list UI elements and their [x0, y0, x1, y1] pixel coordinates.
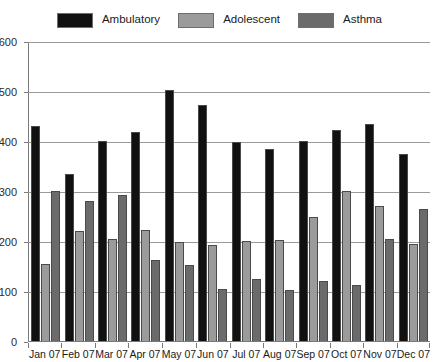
bar[interactable]: [332, 130, 341, 341]
x-axis-tick: [61, 343, 62, 348]
bar[interactable]: [285, 290, 294, 342]
chart-legend: AmbulatoryAdolescentAsthma: [0, 8, 439, 32]
y-axis-tick-label: 100: [0, 287, 17, 298]
x-axis-tick-label: Jan 07: [29, 349, 61, 360]
bar-chart: AmbulatoryAdolescentAsthma 0100200300400…: [0, 0, 439, 362]
y-axis-tick: [24, 192, 28, 193]
x-axis-tick-label: Oct 07: [331, 349, 362, 360]
x-axis-tick-label: Dec 07: [397, 349, 430, 360]
bar[interactable]: [98, 141, 107, 341]
x-axis-tick: [28, 343, 29, 348]
legend-item[interactable]: Ambulatory: [57, 13, 160, 28]
x-axis-tick: [196, 343, 197, 348]
legend-item[interactable]: Adolescent: [178, 13, 280, 28]
bar-group: [96, 42, 129, 341]
x-axis-category: Dec 07: [397, 343, 430, 362]
x-axis-tick-label: Jul 07: [232, 349, 260, 360]
x-axis-tick-label: Sep 07: [296, 349, 329, 360]
bar[interactable]: [299, 141, 308, 341]
bar[interactable]: [252, 279, 261, 342]
bar[interactable]: [165, 90, 174, 341]
x-axis-tick-label: Aug 07: [263, 349, 296, 360]
plot-area: 0100200300400500600: [28, 42, 430, 342]
bar[interactable]: [365, 124, 374, 342]
y-axis-tick: [24, 292, 28, 293]
bar[interactable]: [41, 264, 50, 342]
bar[interactable]: [275, 240, 284, 341]
bar[interactable]: [352, 285, 361, 342]
y-axis-tick-label: 500: [0, 87, 17, 98]
x-axis-tick-label: Feb 07: [62, 349, 95, 360]
x-axis-tick: [397, 343, 398, 348]
y-axis-tick-label: 400: [0, 137, 17, 148]
x-axis-category: Feb 07: [61, 343, 94, 362]
bar[interactable]: [342, 191, 351, 341]
y-axis-tick: [24, 242, 28, 243]
x-axis-tick: [363, 343, 364, 348]
bar[interactable]: [151, 260, 160, 341]
bar[interactable]: [208, 245, 217, 341]
x-axis-tick: [263, 343, 264, 348]
y-axis-tick-label: 600: [0, 37, 17, 48]
bar[interactable]: [75, 231, 84, 341]
bar-group: [129, 42, 162, 341]
bar-group: [263, 42, 296, 341]
x-axis-category: Oct 07: [330, 343, 363, 362]
x-axis-tick-label: Jun 07: [197, 349, 229, 360]
bar-group: [363, 42, 396, 341]
x-axis-category: Apr 07: [128, 343, 161, 362]
bar[interactable]: [309, 217, 318, 341]
bar[interactable]: [108, 239, 117, 342]
bar[interactable]: [409, 244, 418, 342]
y-axis-tick: [24, 92, 28, 93]
y-axis-tick: [24, 42, 28, 43]
x-axis-category: Aug 07: [263, 343, 296, 362]
x-axis-tick: [128, 343, 129, 348]
x-axis-category: Jan 07: [28, 343, 61, 362]
bar[interactable]: [399, 154, 408, 342]
bar[interactable]: [85, 201, 94, 341]
bar[interactable]: [419, 209, 428, 342]
bar[interactable]: [385, 239, 394, 342]
y-axis-tick: [24, 142, 28, 143]
bar[interactable]: [175, 242, 184, 341]
y-axis-tick-label: 300: [0, 187, 17, 198]
bar-group: [29, 42, 62, 341]
x-axis-tick: [296, 343, 297, 348]
bar-group: [330, 42, 363, 341]
bar[interactable]: [218, 289, 227, 342]
x-axis-tick: [95, 343, 96, 348]
bar[interactable]: [51, 191, 60, 341]
bar[interactable]: [375, 206, 384, 341]
legend-swatch-icon: [298, 13, 334, 28]
legend-swatch-icon: [178, 13, 214, 28]
bar-group: [62, 42, 95, 341]
bar[interactable]: [141, 230, 150, 341]
bar-group: [397, 42, 430, 341]
bar[interactable]: [185, 265, 194, 341]
bar[interactable]: [198, 105, 207, 341]
bar[interactable]: [232, 142, 241, 341]
bar-group: [230, 42, 263, 341]
x-axis-category: Jul 07: [230, 343, 263, 362]
x-axis-tick: [429, 343, 430, 348]
bar[interactable]: [118, 195, 127, 342]
x-axis-category: Jun 07: [196, 343, 229, 362]
legend-swatch-icon: [57, 13, 93, 28]
bar[interactable]: [265, 149, 274, 342]
bar-groups: [29, 42, 430, 341]
bar[interactable]: [319, 281, 328, 341]
bar[interactable]: [131, 132, 140, 341]
legend-item-label: Ambulatory: [102, 14, 160, 26]
bar[interactable]: [242, 241, 251, 341]
y-axis-tick-label: 200: [0, 237, 17, 248]
legend-item[interactable]: Asthma: [298, 13, 382, 28]
x-axis-tick-label: May 07: [162, 349, 196, 360]
bar[interactable]: [31, 126, 40, 341]
bar-group: [196, 42, 229, 341]
bar-group: [163, 42, 196, 341]
bar[interactable]: [65, 174, 74, 342]
bar-group: [296, 42, 329, 341]
legend-item-label: Adolescent: [223, 14, 280, 26]
x-axis-tick-label: Nov 07: [363, 349, 396, 360]
